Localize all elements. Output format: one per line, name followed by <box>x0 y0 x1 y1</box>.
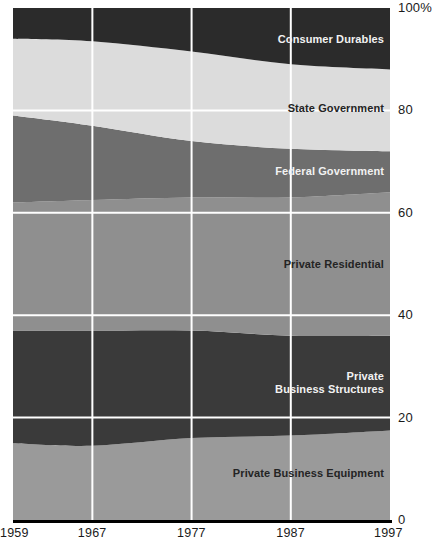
series-label-private-business-equipment: Private Business Equipment <box>233 467 384 480</box>
y-tick-label-60: 60 <box>398 206 413 219</box>
x-tick-label-1987: 1987 <box>276 527 305 540</box>
y-tick-label-100: 100% <box>398 1 432 14</box>
series-label-private-business-structures: Private Business Structures <box>275 370 384 397</box>
chart-canvas: 100% 80 60 40 20 0 1959 1967 1977 1987 1… <box>0 0 435 550</box>
y-tick-label-20: 20 <box>398 411 413 424</box>
x-tick-label-1997: 1997 <box>374 527 403 540</box>
x-tick-label-1977: 1977 <box>177 527 206 540</box>
series-label-federal-government: Federal Government <box>275 165 384 178</box>
series-label-private-residential: Private Residential <box>284 258 384 271</box>
x-tick-label-1967: 1967 <box>78 527 107 540</box>
x-axis-baseline <box>13 520 392 523</box>
series-label-state-government: State Government <box>288 102 384 115</box>
x-tick-label-1959: 1959 <box>0 527 29 540</box>
series-label-consumer-durables: Consumer Durables <box>278 33 384 46</box>
y-tick-label-40: 40 <box>398 308 413 321</box>
y-tick-label-0: 0 <box>398 513 405 526</box>
y-tick-label-80: 80 <box>398 103 413 116</box>
